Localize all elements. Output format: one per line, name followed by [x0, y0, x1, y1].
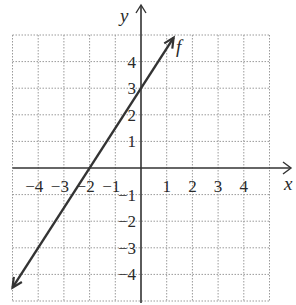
y-tick-label: −3 [118, 239, 136, 258]
x-tick-label: 1 [162, 177, 171, 196]
y-axis-label: y [118, 5, 129, 26]
y-tick-label: 3 [128, 79, 137, 98]
x-tick-label: 4 [240, 177, 249, 196]
x-tick-label: 2 [188, 177, 197, 196]
x-tick-label: −4 [25, 177, 44, 196]
y-tick-label: −1 [118, 186, 136, 205]
y-tick-label: −2 [118, 212, 136, 231]
x-tick-label: −3 [51, 177, 69, 196]
x-axis-label: x [283, 173, 293, 194]
x-tick-label: 3 [214, 177, 223, 196]
coordinate-graph: −4−3−2−112344321−1−2−3−4 y x f [0, 0, 296, 305]
curve-label-f: f [176, 36, 184, 57]
y-tick-label: 4 [128, 53, 137, 72]
axes [13, 5, 292, 303]
x-tick-label: −2 [77, 177, 95, 196]
y-tick-label: −4 [118, 265, 137, 284]
line-f [13, 38, 174, 288]
y-tick-label: 1 [128, 132, 137, 151]
